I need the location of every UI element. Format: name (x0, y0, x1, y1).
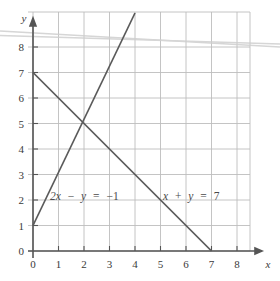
eq2-term-1: x (162, 190, 169, 202)
eq2-term-2: y (187, 190, 194, 203)
y-tick-label-0: 0 (19, 245, 25, 257)
x-tick-labels: 0 1 2 3 4 5 6 7 8 (30, 258, 240, 270)
x-tick-label-7: 7 (209, 258, 215, 270)
axes (28, 18, 262, 258)
x-tick-label-6: 6 (183, 258, 189, 270)
eq1-operator-minus: − (68, 190, 75, 202)
x-tick-label-0: 0 (30, 258, 36, 270)
equation-label-line-1: 2x − y = −1 (50, 190, 119, 203)
y-tick-label-6: 6 (19, 92, 25, 104)
eq1-term-1: 2x (50, 190, 62, 202)
eq2-value: 7 (214, 190, 220, 202)
x-axis-label: x (265, 258, 271, 270)
y-tick-labels: 0 1 2 3 4 5 6 7 8 (19, 41, 25, 257)
grid-lines (28, 12, 250, 251)
plotted-lines (33, 13, 212, 251)
x-axis-arrowhead (255, 248, 262, 254)
x-tick-label-8: 8 (234, 258, 240, 270)
y-tick-label-4: 4 (19, 143, 25, 155)
y-tick-label-5: 5 (19, 118, 25, 130)
x-tick-label-4: 4 (132, 258, 138, 270)
y-axis-arrowhead (30, 18, 36, 26)
y-tick-label-8: 8 (19, 41, 25, 53)
y-axis-label: y (21, 12, 27, 24)
x-tick-label-3: 3 (107, 258, 113, 270)
y-tick-label-7: 7 (19, 67, 25, 79)
y-tick-label-1: 1 (19, 220, 25, 232)
eq2-equals: = (200, 190, 207, 202)
scan-artifacts (0, 31, 280, 47)
x-tick-label-2: 2 (81, 258, 87, 270)
x-tick-label-1: 1 (56, 258, 62, 270)
graph-figure: 0 1 2 3 4 5 6 7 8 0 1 2 3 4 5 6 7 8 x y … (0, 0, 280, 281)
eq1-term-2: y (80, 190, 87, 203)
y-tick-label-2: 2 (19, 194, 25, 206)
x-tick-label-5: 5 (158, 258, 164, 270)
scan-streak-lower-artifact (0, 36, 280, 45)
eq1-equals: = (93, 190, 100, 202)
y-tick-label-3: 3 (19, 169, 25, 181)
coordinate-plane-svg: 0 1 2 3 4 5 6 7 8 0 1 2 3 4 5 6 7 8 x y … (0, 0, 280, 281)
line-x-plus-y-equals-7 (33, 73, 212, 252)
eq1-value: −1 (106, 190, 118, 202)
eq2-operator-plus: + (175, 190, 182, 202)
